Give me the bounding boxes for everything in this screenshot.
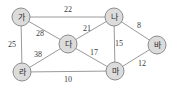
edge-ra-ma [22,71,115,72]
node-label-ga: 가 [18,13,26,22]
node-label-ma: 마 [112,67,120,76]
weight-ma-ba: 12 [138,59,146,68]
graph-canvas: 가 나 다 라 마 바 22 28 25 21 15 8 38 17 10 12 [0,0,176,88]
weight-ga-na: 22 [64,5,72,14]
node-label-ba: 바 [154,40,162,50]
node-group [12,8,166,81]
node-label-da: 다 [65,40,73,49]
weighted-graph-diagram: 가 나 다 라 마 바 22 28 25 21 15 8 38 17 10 12 [0,0,176,88]
weight-na-da: 21 [83,24,91,33]
weight-ga-ra: 25 [8,40,16,49]
weight-ra-ma: 10 [64,75,72,84]
weight-da-ra: 38 [34,50,42,59]
weight-na-ma: 15 [115,39,123,48]
weight-da-ma: 17 [90,48,98,57]
weight-na-ba: 8 [137,21,141,30]
node-label-na: 나 [111,13,119,22]
weight-ga-da: 28 [36,29,44,38]
node-label-ra: 라 [19,68,27,77]
